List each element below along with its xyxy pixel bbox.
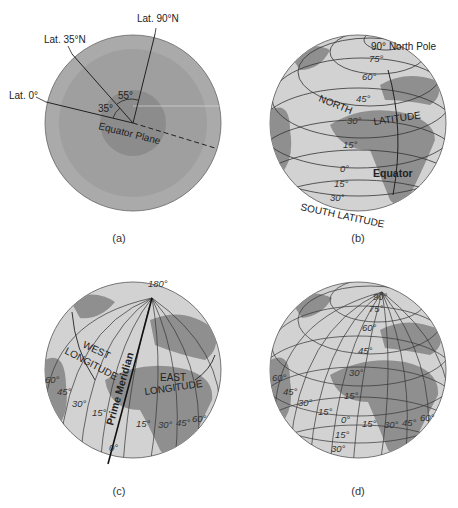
lat-60-label: 60° <box>362 322 377 333</box>
lat-75-label: 75° <box>369 303 384 314</box>
longitude-globe-diagram: 180° WEST LONGITUDE EAST LONGITUDE Prime… <box>0 250 230 508</box>
west-15-label: 15° <box>92 407 107 418</box>
west-60-label: 60° <box>45 374 60 385</box>
panel-a-cross-section: Lat. 90°N Lat. 35°N Lat. 0° 55° 35° Equa… <box>0 0 230 250</box>
lon-e30-label: 30° <box>384 419 399 430</box>
cross-section-diagram: Lat. 90°N Lat. 35°N Lat. 0° 55° 35° Equa… <box>0 0 230 250</box>
lat-0-label: Lat. 0° <box>9 90 38 101</box>
caption-c: (c) <box>104 485 134 497</box>
angle-55-label: 55° <box>118 90 133 101</box>
lat-15s-label: 15° <box>334 178 349 189</box>
lat-15s-label: 15° <box>335 429 350 440</box>
lat-0-label: 0° <box>340 163 349 174</box>
deg-0-label: 0° <box>109 442 118 453</box>
lon-w45-label: 45° <box>283 386 298 397</box>
panel-c-longitude-globe: 180° WEST LONGITUDE EAST LONGITUDE Prime… <box>0 250 230 508</box>
angle-35-label: 35° <box>98 103 113 114</box>
east-30-label: 30° <box>158 419 173 430</box>
lat-30-label: 30° <box>349 367 364 378</box>
equator-label: Equator <box>373 167 413 179</box>
lat-90-label: 90° <box>373 291 388 302</box>
lon-w60-label: 60° <box>272 372 287 383</box>
deg-180-label: 180° <box>148 278 168 289</box>
lat-90-label: Lat. 90°N <box>137 13 179 24</box>
lat-15n-label: 15° <box>343 139 358 150</box>
east-60-label: 60° <box>192 413 207 424</box>
lat-75-label: 75° <box>369 53 384 64</box>
lat-15n-label: 15° <box>344 390 359 401</box>
east-45-label: 45° <box>176 417 191 428</box>
caption-a: (a) <box>104 232 134 244</box>
caption-d: (d) <box>343 485 373 497</box>
lat-30s-label: 30° <box>330 192 345 203</box>
lon-w15-label: 15° <box>318 406 333 417</box>
lon-e45-label: 45° <box>402 417 417 428</box>
lat-35-label: Lat. 35°N <box>44 34 86 45</box>
lat-45-label: 45° <box>356 93 371 104</box>
grid-globe-diagram: 90° 75° 60° 45° 30° 15° 60° 45° 30° 15° … <box>230 250 458 508</box>
panel-b-latitude-globe: 90° North Pole 75° 60° 45° 30° 15° 0° 15… <box>230 0 458 250</box>
lon-0-label: 0° <box>341 414 350 425</box>
lon-e60-label: 60° <box>420 412 435 423</box>
lat-30-label: 30° <box>347 115 362 126</box>
caption-b: (b) <box>343 232 373 244</box>
lat-30s-label: 30° <box>331 443 346 454</box>
west-45-label: 45° <box>57 386 72 397</box>
east-15-label: 15° <box>136 418 151 429</box>
lon-e15-label: 15° <box>362 418 377 429</box>
latitude-globe-diagram: 90° North Pole 75° 60° 45° 30° 15° 0° 15… <box>230 0 458 250</box>
north-pole-label: 90° North Pole <box>371 41 437 52</box>
panel-d-grid-globe: 90° 75° 60° 45° 30° 15° 60° 45° 30° 15° … <box>230 250 458 508</box>
lon-w30-label: 30° <box>298 397 313 408</box>
lat-60-label: 60° <box>362 71 377 82</box>
west-30-label: 30° <box>72 398 87 409</box>
lat-45-label: 45° <box>358 345 373 356</box>
